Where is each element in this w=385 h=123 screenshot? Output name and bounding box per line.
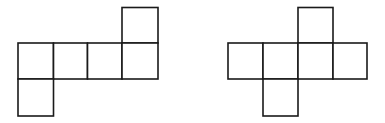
net-square xyxy=(122,8,158,44)
net-square xyxy=(298,43,333,79)
cube-net-right xyxy=(228,8,367,117)
net-square xyxy=(88,43,123,79)
net-square xyxy=(228,43,263,79)
net-square xyxy=(18,79,54,116)
net-square xyxy=(298,8,333,44)
net-square xyxy=(122,43,158,79)
net-square xyxy=(54,43,88,79)
net-square xyxy=(263,43,298,79)
cube-net-left xyxy=(18,8,158,117)
net-square xyxy=(263,79,298,116)
net-square xyxy=(333,43,367,79)
cube-nets-diagram xyxy=(0,0,385,123)
net-square xyxy=(18,43,54,79)
